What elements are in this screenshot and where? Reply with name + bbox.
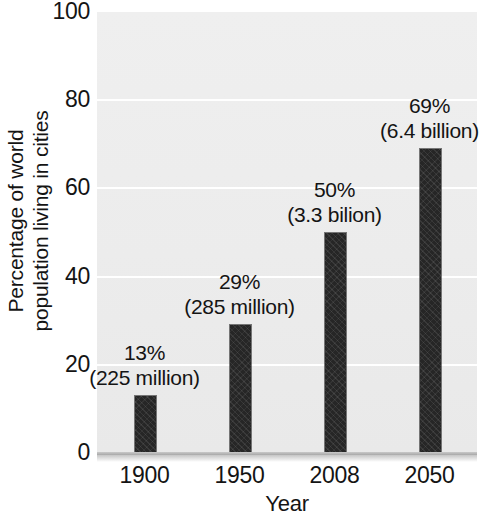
plot-area	[97, 12, 477, 453]
bar-2050	[420, 149, 441, 453]
bar-1900	[135, 396, 156, 453]
y-axis-title: Percentage of world population living in…	[3, 71, 53, 371]
x-tick-label-2008: 2008	[280, 462, 390, 488]
y-axis-title-line-2: population living in cities	[28, 71, 53, 371]
x-tick-label-1900: 1900	[90, 462, 200, 488]
x-tick-label-1950: 1950	[185, 462, 295, 488]
y-tick-label-100: 100	[8, 0, 90, 23]
y-tick-label-0: 0	[8, 441, 90, 464]
y-axis-title-line-1: Percentage of world	[3, 71, 28, 371]
x-axis-shadow	[97, 455, 477, 462]
bar-1950	[230, 325, 251, 453]
bar-2008	[325, 233, 346, 454]
x-tick-label-2050: 2050	[375, 462, 485, 488]
x-axis-title: Year	[97, 491, 477, 517]
bar-chart-figure: 020406080100 1900195020082050 13%(225 mi…	[0, 0, 503, 522]
gridline	[97, 99, 477, 101]
